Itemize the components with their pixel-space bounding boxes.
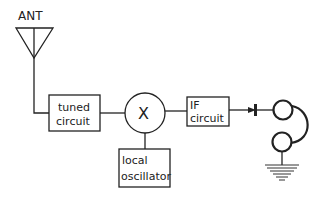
mixer-symbol: X xyxy=(138,104,149,123)
if-circuit-label-1: IF xyxy=(190,99,200,112)
earphone-icon xyxy=(257,101,308,152)
antenna-label: ANT xyxy=(18,9,43,23)
diode-icon xyxy=(248,104,257,116)
tuned-circuit-label-2: circuit xyxy=(56,115,90,128)
antenna-icon xyxy=(16,28,53,58)
local-oscillator-label-1: local xyxy=(122,154,148,167)
if-circuit-label-2: circuit xyxy=(190,112,224,125)
local-oscillator-label-2: oscillator xyxy=(121,170,171,183)
receiver-diagram: ANT tuned circuit X local oscillator IF … xyxy=(0,0,324,198)
tuned-circuit-label-1: tuned xyxy=(58,101,90,114)
ground-icon xyxy=(265,165,299,180)
connector-ant-tuned xyxy=(34,58,49,113)
